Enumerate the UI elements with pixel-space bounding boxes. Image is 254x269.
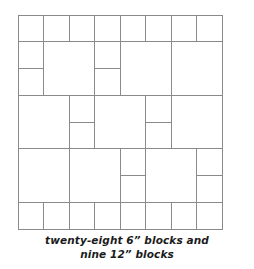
- diagram-caption: twenty-eight 6” blocks and nine 12” bloc…: [0, 234, 254, 261]
- block-r5c3-6in: [69, 122, 95, 149]
- block-r1c3-6in: [69, 15, 95, 42]
- block-r6c1-12in: [18, 149, 69, 203]
- block-r2c5-12in: [120, 42, 171, 96]
- quilt-layout-page: twenty-eight 6” blocks and nine 12” bloc…: [0, 0, 254, 269]
- block-r1c8-6in: [197, 15, 223, 42]
- block-r6c8-6in: [197, 149, 223, 176]
- block-r7c5-6in: [120, 176, 146, 203]
- block-r8c4-6in: [95, 202, 121, 229]
- block-r8c6-6in: [146, 202, 172, 229]
- caption-line-1: twenty-eight 6” blocks and: [0, 234, 254, 248]
- block-r2c1-6in: [18, 42, 44, 69]
- block-r3c1-6in: [18, 69, 44, 96]
- quilt-diagram: [0, 0, 254, 238]
- block-r1c6-6in: [146, 15, 172, 42]
- block-r8c1-6in: [18, 202, 44, 229]
- block-r8c8-6in: [197, 202, 223, 229]
- block-r1c7-6in: [171, 15, 197, 42]
- caption-line-2: nine 12” blocks: [0, 248, 254, 262]
- block-r4c4-12in: [95, 95, 146, 149]
- block-r4c7-12in: [171, 95, 222, 149]
- block-r5c6-6in: [146, 122, 172, 149]
- block-r4c3-6in: [69, 95, 95, 122]
- block-r2c7-12in: [171, 42, 222, 96]
- block-r1c5-6in: [120, 15, 146, 42]
- block-r6c6-12in: [146, 149, 197, 203]
- block-r8c7-6in: [171, 202, 197, 229]
- block-r1c4-6in: [95, 15, 121, 42]
- block-r2c4-6in: [95, 42, 121, 69]
- block-r1c1-6in: [18, 15, 44, 42]
- block-r8c3-6in: [69, 202, 95, 229]
- block-r4c1-12in: [18, 95, 69, 149]
- block-r4c6-6in: [146, 95, 172, 122]
- quilt-blocks-group: [18, 15, 222, 229]
- block-r7c8-6in: [197, 176, 223, 203]
- block-r8c5-6in: [120, 202, 146, 229]
- quilt-grid-svg: [0, 0, 254, 238]
- block-r8c2-6in: [44, 202, 70, 229]
- block-r3c4-6in: [95, 69, 121, 96]
- block-r6c5-6in: [120, 149, 146, 176]
- block-r6c3-12in: [69, 149, 120, 203]
- block-r2c2-12in: [44, 42, 95, 96]
- block-r1c2-6in: [44, 15, 70, 42]
